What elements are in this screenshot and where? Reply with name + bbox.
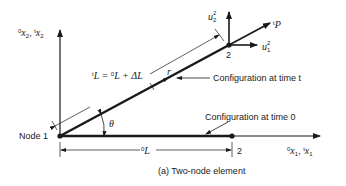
- u1-label: u21: [262, 40, 271, 53]
- force-label: tP: [273, 19, 281, 30]
- caption: (a) Two-node element: [158, 166, 246, 176]
- node-2-original: [229, 133, 234, 138]
- length-t-extension-2: [215, 29, 224, 41]
- axis-x2-label: 0x2, tx2: [18, 27, 44, 39]
- config-0-leader: [206, 122, 228, 134]
- node-2-original-label: 2: [237, 146, 242, 156]
- config-0-label: Configuration at time 0: [205, 112, 296, 122]
- node-1-label: Node 1: [19, 131, 48, 141]
- theta-arc-icon: [101, 114, 104, 136]
- length-t-label: tL = 0L + ΔL: [92, 70, 143, 81]
- theta-label: θ: [109, 118, 114, 129]
- element-time-t: [60, 45, 229, 136]
- r-arrow-icon: [153, 78, 168, 86]
- length-0-label: 0L: [141, 145, 150, 156]
- two-node-element-diagram: 0x2, tx2 0x1, tx1 tL = 0L + ΔL r θ Node …: [0, 0, 346, 186]
- u2-label: u22: [208, 10, 217, 23]
- node-2-deformed-label: 2: [226, 50, 231, 60]
- node-1: [57, 133, 62, 138]
- config-t-label: Configuration at time t: [213, 73, 302, 83]
- r-label: r: [167, 66, 171, 77]
- axis-x1-label: 0x1, tx1: [287, 145, 313, 157]
